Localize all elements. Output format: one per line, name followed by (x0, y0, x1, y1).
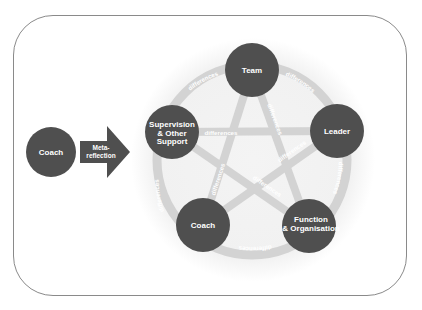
svg-text:Meta-: Meta- (93, 144, 110, 151)
svg-text:Coach: Coach (191, 221, 216, 230)
svg-text:reflection: reflection (86, 152, 115, 159)
node-coach: Coach (176, 198, 230, 252)
meta-reflection-arrow: Meta- reflection (80, 126, 130, 178)
node-leader: Leader (310, 104, 364, 158)
connector-label: differences (204, 129, 238, 136)
svg-text:Function: Function (294, 215, 328, 224)
svg-text:Support: Support (157, 137, 188, 146)
svg-text:Leader: Leader (324, 127, 350, 136)
svg-text:Team: Team (242, 66, 262, 75)
node-supervision: Supervision & Other Support (145, 105, 199, 159)
node-external-coach: Coach (26, 127, 76, 177)
svg-text:& Organisation: & Organisation (282, 224, 339, 233)
svg-text:Coach: Coach (39, 148, 64, 157)
pentagon-diagram: differences differences differences diff… (0, 0, 422, 310)
node-team: Team (225, 43, 279, 97)
